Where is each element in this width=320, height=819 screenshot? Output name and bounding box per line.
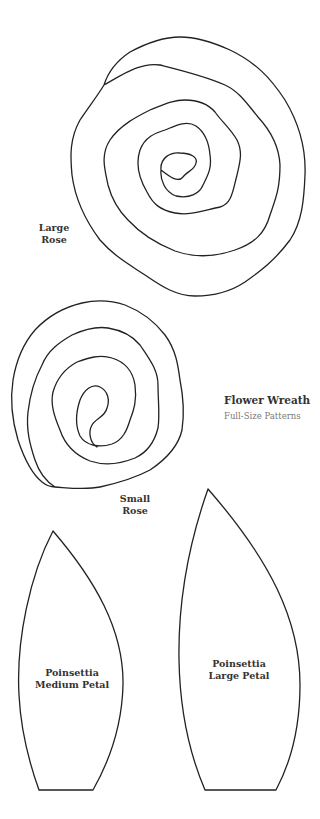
- document-title-block: Flower Wreath Full-Size Patterns: [224, 394, 310, 421]
- pattern-page: Large Rose Small Rose Flower Wreath Full…: [0, 0, 320, 819]
- large-rose-label: Large Rose: [39, 222, 70, 245]
- large-petal-label-line2: Large Petal: [209, 670, 270, 682]
- small-rose-label-line1: Small: [120, 493, 150, 505]
- document-subtitle: Full-Size Patterns: [224, 411, 310, 421]
- large-petal-label-line1: Poinsettia: [209, 658, 270, 670]
- small-rose-spiral: [12, 301, 184, 489]
- large-rose-label-line1: Large: [39, 222, 70, 234]
- medium-petal-outline: [19, 531, 123, 790]
- small-rose-label: Small Rose: [120, 493, 150, 516]
- large-petal-outline: [179, 489, 300, 790]
- large-rose-spiral: [71, 37, 305, 296]
- large-petal-label: Poinsettia Large Petal: [209, 658, 270, 681]
- medium-petal-label: Poinsettia Medium Petal: [35, 667, 109, 690]
- small-rose-label-line2: Rose: [120, 505, 150, 517]
- document-title: Flower Wreath: [224, 394, 310, 406]
- medium-petal-label-line2: Medium Petal: [35, 679, 109, 691]
- medium-petal-label-line1: Poinsettia: [35, 667, 109, 679]
- large-rose-label-line2: Rose: [39, 234, 70, 246]
